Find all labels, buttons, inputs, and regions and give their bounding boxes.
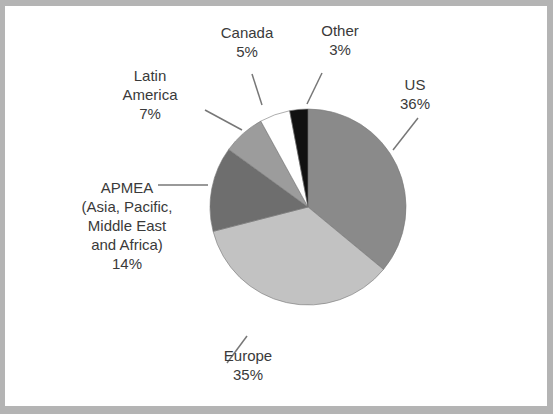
- label-other-pct: 3%: [305, 40, 375, 59]
- label-other-name: Other: [305, 21, 375, 40]
- label-apmea: APMEA (Asia, Pacific, Middle East and Af…: [62, 178, 192, 273]
- leader-line: [205, 110, 242, 130]
- label-canada-pct: 5%: [212, 42, 282, 61]
- label-canada-name: Canada: [212, 23, 282, 42]
- label-latin-line2: America: [110, 85, 190, 104]
- label-canada: Canada 5%: [212, 23, 282, 61]
- leader-line: [393, 118, 418, 150]
- label-latin-line1: Latin: [110, 66, 190, 85]
- label-us: US 36%: [375, 75, 455, 113]
- label-europe-name: Europe: [198, 346, 298, 365]
- leader-line: [307, 73, 322, 104]
- label-latin-pct: 7%: [110, 104, 190, 123]
- label-us-name: US: [375, 75, 455, 94]
- label-apmea-line4: and Africa): [62, 235, 192, 254]
- leader-line: [252, 74, 262, 105]
- label-apmea-line3: Middle East: [62, 216, 192, 235]
- label-us-pct: 36%: [375, 94, 455, 113]
- label-europe: Europe 35%: [198, 346, 298, 384]
- label-europe-pct: 35%: [198, 365, 298, 384]
- label-apmea-line2: (Asia, Pacific,: [62, 197, 192, 216]
- label-other: Other 3%: [305, 21, 375, 59]
- label-apmea-line1: APMEA: [62, 178, 192, 197]
- label-latin-america: Latin America 7%: [110, 66, 190, 123]
- label-apmea-pct: 14%: [62, 254, 192, 273]
